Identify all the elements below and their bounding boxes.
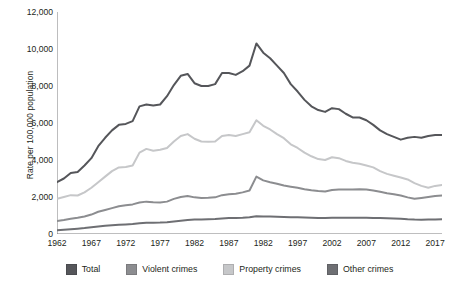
legend-item-property-crimes[interactable]: Property crimes <box>223 264 301 275</box>
x-tick-label: 1962 <box>47 238 66 248</box>
x-tick-label: 1972 <box>116 238 135 248</box>
x-tick-label: 1982 <box>254 238 273 248</box>
series-line-other-crimes <box>57 216 442 230</box>
x-tick-label: 1982 <box>185 238 204 248</box>
x-tick-label: 1997 <box>288 238 307 248</box>
data-series-lines <box>57 43 442 230</box>
legend-item-violent-crimes[interactable]: Violent crimes <box>126 264 197 275</box>
legend-swatch-icon <box>327 264 338 275</box>
legend-label: Violent crimes <box>142 264 197 274</box>
plot-area <box>57 12 442 234</box>
legend-label: Other crimes <box>343 264 393 274</box>
x-tick-label: 2017 <box>426 238 445 248</box>
legend-swatch-icon <box>223 264 234 275</box>
x-tick-label: 1977 <box>151 238 170 248</box>
crime-rate-chart: Rate per 100,000 population 02,0004,0006… <box>0 0 459 287</box>
y-tick-label: 6,000 <box>11 118 53 128</box>
x-tick-label: 1987 <box>219 238 238 248</box>
x-tick-label: 2012 <box>391 238 410 248</box>
y-tick-label: 8,000 <box>11 81 53 91</box>
x-axis-tick-labels: 1962196719721977198219871982199720022007… <box>57 238 442 252</box>
y-tick-label: 4,000 <box>11 155 53 165</box>
legend-label: Property crimes <box>239 264 301 274</box>
axis-ticks <box>57 12 442 234</box>
x-tick-label: 2002 <box>322 238 341 248</box>
y-tick-label: 2,000 <box>11 192 53 202</box>
chart-svg <box>57 12 442 234</box>
x-tick-label: 1967 <box>82 238 101 248</box>
legend-label: Total <box>82 264 101 274</box>
series-line-total <box>57 43 442 182</box>
y-tick-label: 10,000 <box>11 44 53 54</box>
y-tick-label: 12,000 <box>11 7 53 17</box>
x-tick-label: 2007 <box>357 238 376 248</box>
series-line-violent-crimes <box>57 177 442 221</box>
y-axis-tick-labels: 02,0004,0006,0008,00010,00012,000 <box>7 12 53 234</box>
legend-item-other-crimes[interactable]: Other crimes <box>327 264 393 275</box>
legend-swatch-icon <box>66 264 77 275</box>
axis-lines <box>57 12 442 234</box>
legend-swatch-icon <box>126 264 137 275</box>
legend-item-total[interactable]: Total <box>66 264 101 275</box>
chart-legend: TotalViolent crimesProperty crimesOther … <box>0 259 459 279</box>
